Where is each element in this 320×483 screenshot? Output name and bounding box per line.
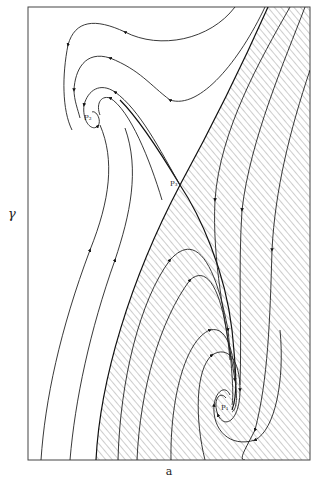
point-label-p2: P₂	[84, 114, 92, 122]
point-label-p3: P₃	[170, 180, 178, 188]
trajectory	[41, 125, 109, 460]
trajectory	[64, 7, 235, 130]
hatched-basin-region	[96, 7, 310, 460]
x-axis-label: a	[166, 465, 173, 478]
point-label-p1: P₁	[221, 404, 229, 412]
trajectory	[84, 88, 180, 185]
y-axis-label: γ	[8, 206, 16, 221]
phase-portrait: P₂ P₃ P₁ γ a	[0, 0, 320, 483]
